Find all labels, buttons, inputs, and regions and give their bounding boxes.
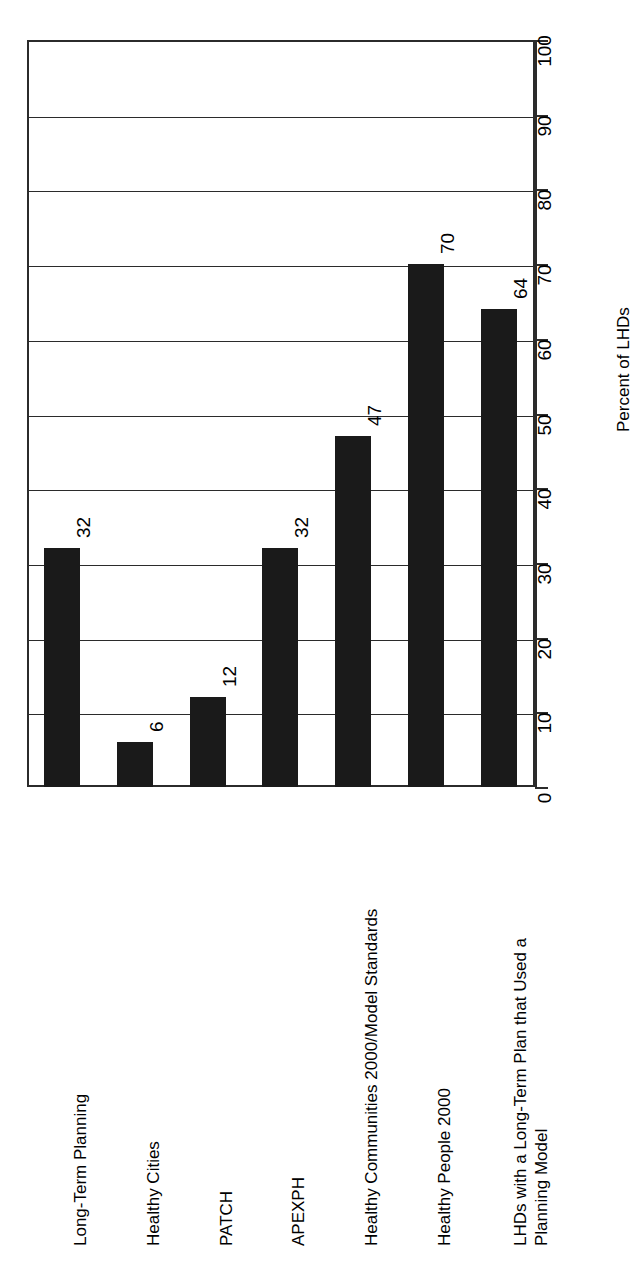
gridline <box>29 416 533 417</box>
gridline <box>29 266 533 267</box>
axis-tick-label: 10 <box>534 701 556 745</box>
category-label: Healthy Cities <box>143 816 164 1246</box>
bar <box>262 548 298 787</box>
axis-tick-label: 70 <box>534 253 556 297</box>
axis-tick-label: 40 <box>534 477 556 521</box>
axis-tick-label: 50 <box>534 403 556 447</box>
bar-value-label: 32 <box>291 517 313 538</box>
category-label: Long-Term Planning <box>70 816 91 1246</box>
axis-tick-label: 0 <box>534 776 556 820</box>
axis-tick-label: 20 <box>534 627 556 671</box>
category-label: APEXPH <box>288 816 309 1246</box>
bar <box>190 697 226 787</box>
bar <box>481 309 517 787</box>
category-label: PATCH <box>216 816 237 1246</box>
axis-tick-label: 60 <box>534 328 556 372</box>
gridline <box>29 341 533 342</box>
bar <box>44 548 80 787</box>
category-label: LHDs with a Long-Term Plan that Used a P… <box>510 816 552 1246</box>
axis-tick-label: 30 <box>534 552 556 596</box>
bar-value-label: 47 <box>364 405 386 426</box>
axis-tick-label: 100 <box>534 29 556 73</box>
bar <box>335 436 371 787</box>
bar-value-label: 70 <box>437 233 459 254</box>
gridline <box>29 117 533 118</box>
gridline <box>29 191 533 192</box>
axis-tick-label: 90 <box>534 104 556 148</box>
bar-value-label: 32 <box>73 517 95 538</box>
bar-value-label: 64 <box>510 278 532 299</box>
bar-chart: 0102030405060708090100 3261232477064 Lon… <box>0 0 638 1261</box>
gridline <box>29 490 533 491</box>
bar <box>117 742 153 787</box>
bar <box>408 264 444 787</box>
category-label: Healthy Communities 2000/Model Standards <box>361 816 382 1246</box>
axis-tick-label: 80 <box>534 178 556 222</box>
bar-value-label: 6 <box>146 722 168 733</box>
value-axis-title: Percent of LHDs <box>614 307 634 432</box>
bar-value-label: 12 <box>219 666 241 687</box>
category-label: Healthy People 2000 <box>434 816 455 1246</box>
